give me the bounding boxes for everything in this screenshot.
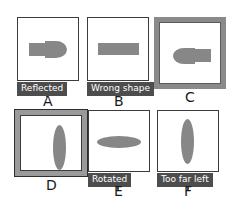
option-c-shapes (159, 22, 221, 84)
option-a-letter: A (43, 94, 53, 108)
option-f-shapes (158, 111, 218, 171)
option-c-panel[interactable] (154, 17, 226, 89)
option-f-panel[interactable] (157, 110, 219, 172)
vertical-ellipse-shape (53, 125, 66, 170)
rectangle-shape (98, 43, 139, 55)
vertical-ellipse-shape (181, 119, 194, 164)
option-d[interactable]: D (15, 110, 87, 200)
horizontal-ellipse-shape (97, 136, 141, 148)
option-d-letter: D (46, 178, 57, 192)
option-b[interactable]: Wrong shape B (87, 17, 149, 103)
option-b-shapes (88, 18, 148, 80)
option-e-letter: E (114, 184, 123, 198)
option-e[interactable]: Rotated E (88, 110, 150, 200)
option-f-letter: F (184, 184, 192, 198)
option-b-letter: B (114, 94, 124, 108)
option-a-shapes (18, 18, 78, 80)
option-d-panel[interactable] (15, 110, 87, 176)
option-e-panel[interactable] (88, 110, 150, 172)
pointed-ellipse-shape (45, 41, 67, 58)
pointed-ellipse-shape (173, 48, 195, 64)
option-a[interactable]: Reflected A (17, 17, 79, 103)
answer-options-figure: Reflected A Wrong shape B C D (0, 0, 232, 203)
option-f[interactable]: Too far left F (157, 110, 223, 200)
option-e-caption: Rotated (88, 173, 131, 187)
option-c-letter: C (185, 90, 195, 104)
rectangle-shape (29, 43, 46, 56)
option-a-panel[interactable] (17, 17, 79, 81)
option-c[interactable]: C (154, 17, 226, 103)
option-e-shapes (89, 111, 149, 171)
option-d-shapes (20, 115, 82, 171)
rectangle-shape (194, 49, 211, 62)
option-b-panel[interactable] (87, 17, 149, 81)
